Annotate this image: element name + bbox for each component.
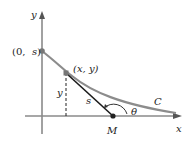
m-label: M xyxy=(106,125,118,136)
curve-label: C xyxy=(154,96,162,107)
point-0-s-label-open: (0, xyxy=(12,46,25,57)
y-axis-arrow-icon xyxy=(39,11,45,19)
angle-arc xyxy=(104,104,127,114)
point-x-y xyxy=(64,71,69,76)
point-0-s-label-close: ) xyxy=(37,46,41,57)
point-x-y-label: (x, y) xyxy=(73,63,99,74)
x-axis-arrow-icon xyxy=(173,113,182,119)
tangent-label: s xyxy=(86,95,91,106)
angle-label: θ xyxy=(131,106,137,117)
height-label: y xyxy=(56,87,63,98)
y-axis-label: y xyxy=(30,9,37,20)
x-axis-label: x xyxy=(176,123,182,134)
tractrix-diagram: y x (0, s ) (x, y) y s C θ M xyxy=(0,0,186,142)
point-m xyxy=(110,113,115,118)
